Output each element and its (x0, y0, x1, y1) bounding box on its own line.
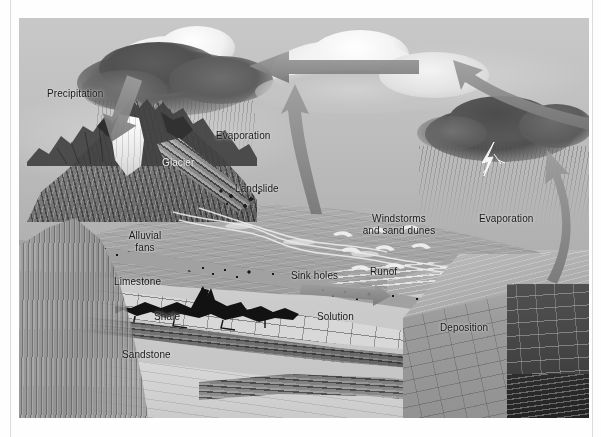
precipitation-arrow (94, 72, 151, 148)
page-canvas: Precipitation Evaporation Glacier Landsl… (0, 0, 601, 437)
moisture-transport-arrow (249, 51, 419, 83)
diagram-illustration: Precipitation Evaporation Glacier Landsl… (19, 18, 589, 418)
evaporation-arrow-left (281, 84, 322, 214)
cycle-arrows (19, 18, 589, 418)
runoff-arrow (300, 284, 391, 306)
transport-arrow-right (453, 60, 589, 130)
evaporation-arrow-right (545, 150, 571, 284)
page-rule-right (592, 0, 593, 437)
page-rule-left (10, 0, 11, 437)
